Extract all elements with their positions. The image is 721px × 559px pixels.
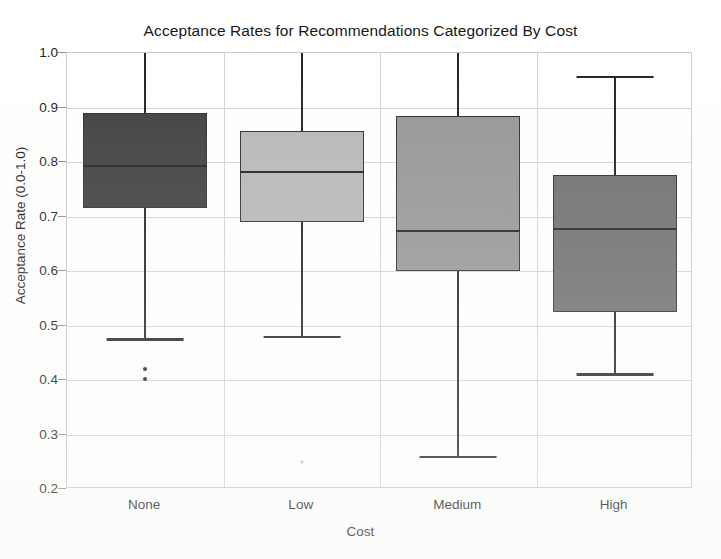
y-axis-tick-mark [58, 434, 66, 435]
whisker-cap-lower [263, 336, 340, 339]
whisker-cap-lower [107, 338, 184, 341]
whisker-cap-lower [576, 373, 653, 376]
x-axis-title: Cost [0, 524, 721, 539]
median-line [553, 228, 677, 230]
box-medium [396, 116, 520, 271]
whisker-upper [144, 53, 146, 113]
whisker-lower [301, 222, 303, 336]
y-axis-tick-mark [58, 52, 66, 53]
y-axis-tick-mark [58, 107, 66, 108]
y-axis-tick-mark [58, 270, 66, 271]
y-axis-tick-mark [58, 161, 66, 162]
whisker-upper [301, 53, 303, 131]
y-axis-tick-mark [58, 325, 66, 326]
x-axis-tick-label-low: Low [288, 497, 313, 512]
whisker-lower [144, 208, 146, 338]
whisker-cap-lower [420, 456, 497, 459]
gridline-horizontal [67, 435, 691, 436]
box-low [240, 131, 364, 222]
outlier-point [300, 460, 303, 463]
median-line [240, 171, 364, 173]
whisker-lower [457, 271, 459, 456]
whisker-upper [614, 76, 616, 175]
gridline-vertical [537, 53, 538, 487]
gridline-horizontal [67, 326, 691, 327]
box-none [83, 113, 207, 208]
x-axis-tick-label-none: None [128, 497, 160, 512]
x-axis-tick-label-high: High [600, 497, 628, 512]
gridline-vertical [224, 53, 225, 487]
whisker-upper [457, 53, 459, 116]
box-high [553, 175, 677, 313]
x-axis-tick-label-medium: Medium [433, 497, 481, 512]
gridline-horizontal [67, 380, 691, 381]
whisker-cap-upper [576, 76, 653, 79]
median-line [83, 165, 207, 167]
outlier-point [143, 377, 147, 381]
y-axis-tick-marks [0, 52, 66, 488]
box-plot-figure: Acceptance Rates for Recommendations Cat… [0, 0, 721, 559]
gridline-horizontal [67, 108, 691, 109]
median-line [396, 230, 520, 232]
whisker-lower [614, 312, 616, 373]
outlier-point [143, 367, 147, 371]
y-axis-tick-mark [58, 379, 66, 380]
plot-area [66, 52, 692, 488]
chart-title: Acceptance Rates for Recommendations Cat… [0, 22, 721, 40]
y-axis-tick-mark [58, 216, 66, 217]
y-axis-tick-mark [58, 488, 66, 489]
gridline-vertical [380, 53, 381, 487]
